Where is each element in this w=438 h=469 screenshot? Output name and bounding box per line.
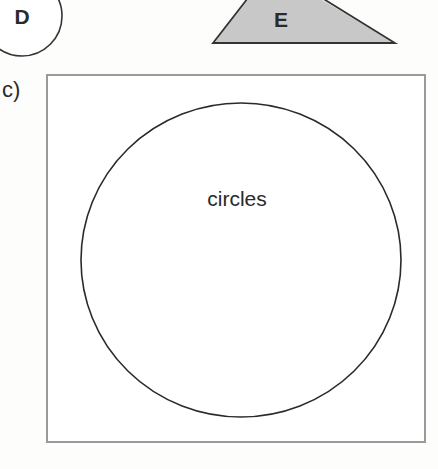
universal-set-box — [47, 75, 425, 442]
diagram-canvas: D E c) circles — [0, 0, 438, 469]
part-c-label: c) — [2, 77, 20, 102]
shape-d: D — [0, 0, 62, 56]
shape-e-label: E — [274, 8, 288, 31]
shape-e: E — [213, 0, 395, 43]
shape-d-label: D — [14, 5, 29, 28]
circle-d-shape — [0, 0, 62, 56]
set-circles-label: circles — [207, 187, 267, 210]
